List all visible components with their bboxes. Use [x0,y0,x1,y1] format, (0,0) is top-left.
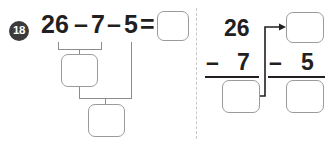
worksheet-problem: 18 26 – 7 – 5 = 26 – 7 – 5 [0,0,330,147]
carry-arrow [0,0,330,147]
